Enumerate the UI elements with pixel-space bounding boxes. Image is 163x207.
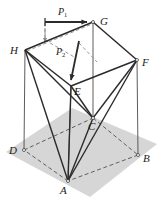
vertex-label-B: B [143,152,150,164]
edge-H-C [25,50,93,118]
vertex-dot-F [136,59,139,62]
force-vector-p1: P1 [45,6,87,26]
p2-guide-diag [79,43,97,62]
vertex-label-H: H [9,44,19,56]
force-vector-p2: P2 [55,41,79,80]
edge-G-F [93,22,137,60]
force-label-p2: P2 [55,46,65,58]
vertex-label-G: G [100,15,108,27]
force-label-p1: P1 [57,6,67,18]
vertex-dot-G [92,21,95,24]
vertex-dot-D [23,149,26,152]
vertex-label-F: F [141,56,149,68]
figure-canvas: P1 P2 H G F E D C B A [0,0,163,207]
vertex-label-A: A [59,184,67,196]
vertex-label-D: D [8,144,17,156]
vertex-label-E: E [73,85,81,97]
top-face-group [25,22,137,86]
geometry-figure: P1 P2 H G F E D C B A [0,0,163,207]
vertex-dot-A [67,180,70,183]
vertex-dot-B [137,154,140,157]
p2-arrow [71,41,79,80]
vertex-label-C: C [88,120,96,132]
edge-H-D [24,50,25,150]
